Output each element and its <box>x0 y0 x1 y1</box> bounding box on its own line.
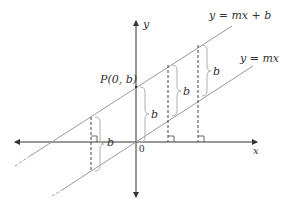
point-p-label: P(0, b) <box>99 73 137 86</box>
line-y-mx-plus-b <box>30 26 232 156</box>
x-axis-label: x <box>253 145 259 156</box>
y-axis-label: y <box>142 18 150 31</box>
shift-label-b: b <box>107 136 114 149</box>
line-y-mx-label: y = mx <box>239 52 280 65</box>
line-y-mx-plus-b-fade <box>15 156 30 166</box>
point-p <box>135 86 137 88</box>
shift-label-b: b <box>151 108 158 121</box>
line-y-mx-fade <box>52 190 62 196</box>
line-y-mx-plus-b-label: y = mx + b <box>208 9 271 22</box>
diagram-canvas: y x 0 P(0, b) y = mx + b y = mx b b b b <box>0 0 281 207</box>
shift-label-b: b <box>213 65 220 78</box>
shift-label-b: b <box>183 85 190 98</box>
origin-label: 0 <box>139 142 145 154</box>
